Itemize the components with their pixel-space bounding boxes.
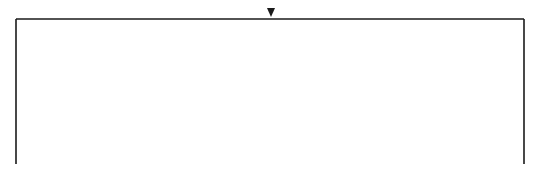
frame xyxy=(16,19,524,164)
arrow-marker-icon xyxy=(267,8,275,17)
herringbone-diagram xyxy=(0,0,538,174)
